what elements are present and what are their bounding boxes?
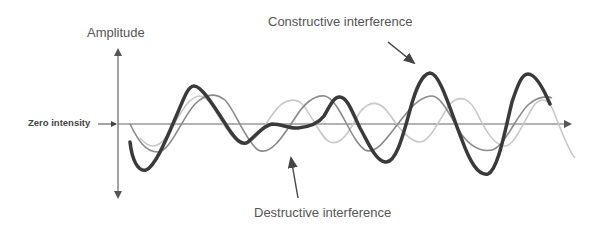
- zero-intensity-label: Zero intensity: [28, 117, 90, 128]
- y-axis-label: Amplitude: [87, 25, 145, 40]
- constructive-interference-label: Constructive interference: [268, 14, 413, 29]
- destructive-arrow: [291, 158, 298, 198]
- constructive-arrow: [388, 42, 414, 63]
- destructive-interference-label: Destructive interference: [254, 205, 391, 220]
